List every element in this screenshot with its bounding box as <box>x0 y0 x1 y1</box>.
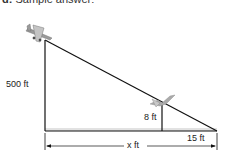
hypotenuse-line <box>45 40 217 131</box>
similar-triangles-diagram <box>0 0 227 154</box>
arrow-left-icon <box>46 144 51 147</box>
airplane-icon <box>26 24 52 42</box>
short-height-label: 8 ft <box>144 113 157 122</box>
bird-icon <box>150 95 175 107</box>
total-base-label: x ft <box>127 141 139 150</box>
tall-height-label: 500 ft <box>6 80 29 89</box>
arrow-right-icon <box>211 144 216 147</box>
short-base-label: 15 ft <box>187 134 205 143</box>
